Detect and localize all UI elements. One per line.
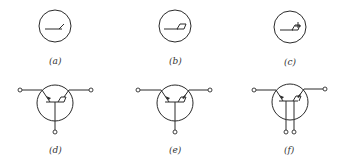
panel-e: (e)	[136, 85, 212, 155]
panel-f: (f)	[252, 84, 327, 155]
label-e: (e)	[169, 145, 182, 155]
label-b: (b)	[169, 56, 182, 66]
panel-d: (d)	[18, 85, 93, 155]
label-c: (c)	[284, 57, 297, 67]
label-a: (a)	[49, 56, 62, 66]
panel-c: (c)	[274, 11, 306, 67]
panel-b: (b)	[159, 10, 191, 66]
transistor-diagram: (a) (b) (c) (d)	[0, 0, 345, 167]
label-d: (d)	[49, 145, 62, 155]
label-f: (f)	[284, 145, 295, 155]
panel-a: (a)	[39, 10, 71, 66]
